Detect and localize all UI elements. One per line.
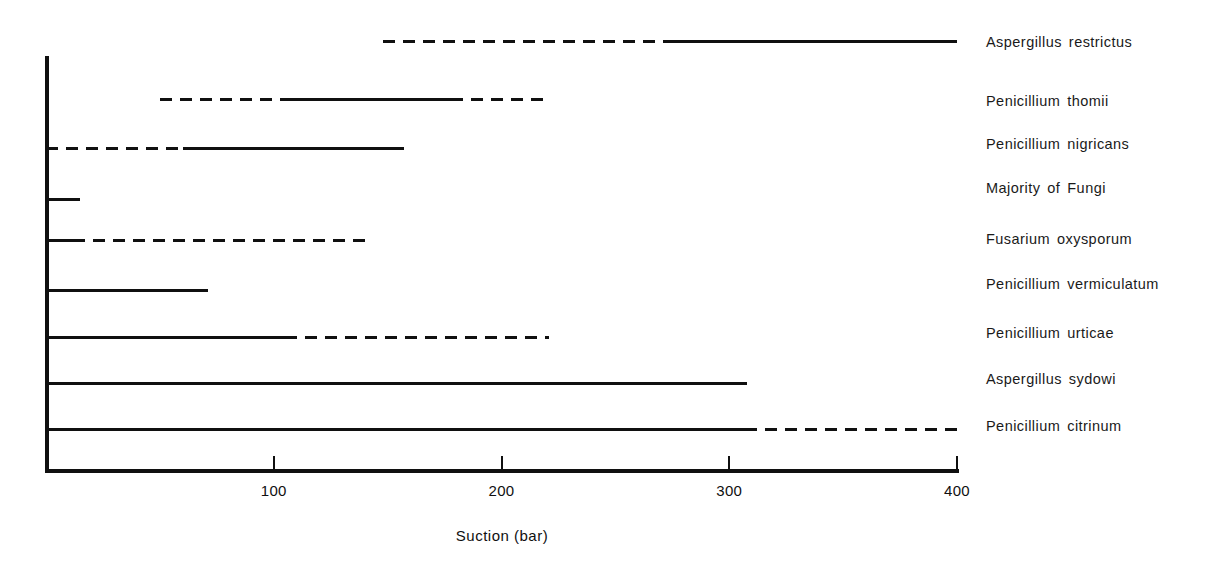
chart-figure: 100200300400 Aspergillus restrictusPenic… [0,0,1215,569]
category-label: Aspergillus sydowi [986,371,1116,387]
bar-segment-dashed [160,98,281,101]
bar-segment-solid [46,289,208,292]
category-label: Penicillium citrinum [986,418,1122,434]
x-tick-100 [273,456,275,471]
bar-segment-solid [46,382,747,385]
bar-segment-solid [281,98,452,101]
bar-segment-solid [46,336,285,339]
bar-segment-solid [46,198,80,201]
category-label: Fusarium oxysporum [986,231,1132,247]
category-label: Penicillium nigricans [986,136,1129,152]
x-tick-300 [728,456,730,471]
bar-segment-solid [46,239,73,242]
x-tick-label-200: 200 [489,482,515,499]
bar-segment-dashed [451,98,549,101]
x-tick-label-100: 100 [261,482,287,499]
category-label: Penicillium vermiculatum [986,276,1159,292]
x-tick-200 [501,456,503,471]
x-tick-label-400: 400 [944,482,970,499]
category-label: Aspergillus restrictus [986,34,1132,50]
x-tick-label-300: 300 [716,482,742,499]
category-label: Penicillium urticae [986,325,1114,341]
bar-segment-dashed [745,428,957,431]
y-axis-line [45,56,49,473]
category-label: Penicillium thomii [986,93,1109,109]
category-label: Majority of Fungi [986,180,1106,196]
bar-segment-solid [46,428,745,431]
x-tick-400 [956,456,958,471]
bar-segment-dashed [383,40,672,43]
bar-segment-dashed [46,147,183,150]
bar-segment-solid [183,147,404,150]
bar-segment-dashed [285,336,549,339]
bar-segment-dashed [73,239,371,242]
x-axis-title: Suction (bar) [456,527,548,544]
bar-segment-solid [672,40,957,43]
